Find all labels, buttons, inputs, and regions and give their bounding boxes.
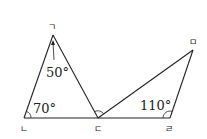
diagram-canvas: ㄱ ㄴ ㄷ ㄹ ㅁ 50° 70° 110° [0, 0, 207, 139]
angle-label-apex: 50° [46, 65, 69, 80]
segment-d-e [170, 50, 193, 118]
angle-label-left-base: 70° [33, 101, 56, 116]
vertex-label-a: ㄱ [48, 22, 56, 32]
vertex-label-c: ㄷ [94, 124, 102, 134]
vertex-label-e: ㅁ [189, 37, 197, 47]
vertex-label-d: ㄹ [165, 124, 173, 134]
angle-arc-b [26, 111, 31, 118]
vertex-label-b: ㄴ [20, 124, 28, 134]
angle-label-right-base: 110° [140, 98, 171, 113]
geometry-diagram: ㄱ ㄴ ㄷ ㄹ ㅁ 50° 70° 110° [0, 0, 207, 139]
arrow-head-icon [51, 40, 55, 45]
